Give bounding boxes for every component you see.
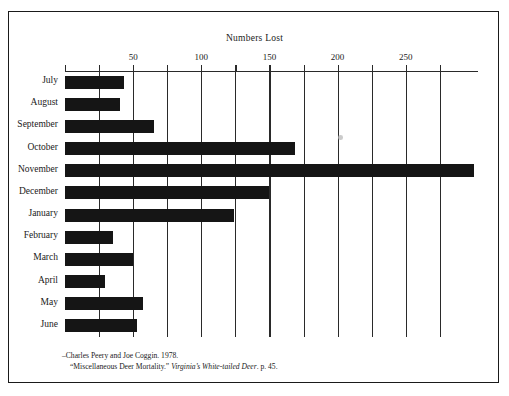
bar-june [65, 319, 137, 332]
gridline-250 [406, 71, 407, 337]
citation-line-2: “Miscellaneous Deer Mortality.” Virginia… [62, 362, 278, 373]
category-axis-labels: JulyAugustSeptemberOctoberNovemberDecemb… [0, 71, 58, 337]
bar-august [65, 98, 120, 111]
gridline-75 [167, 71, 168, 337]
axis-tick-label-150: 150 [263, 52, 277, 62]
axis-tick-label-250: 250 [399, 52, 413, 62]
category-label-may: May [41, 297, 58, 307]
bar-may [65, 297, 143, 310]
gridline-125 [235, 71, 236, 337]
gridline-150 [269, 71, 270, 337]
category-label-october: October [27, 142, 58, 152]
figure-page: Numbers Lost JulyAugustSeptemberOctoberN… [0, 0, 509, 396]
bar-february [65, 231, 113, 244]
bar-march [65, 253, 133, 266]
category-label-march: March [33, 252, 58, 262]
value-axis-line [65, 71, 478, 72]
source-citation: –Charles Peery and Joe Coggin. 1978. “Mi… [62, 351, 278, 372]
category-label-november: November [18, 164, 58, 174]
bar-october [65, 142, 295, 155]
axis-tick-label-100: 100 [195, 52, 209, 62]
bar-april [65, 275, 105, 288]
axis-tick-label-200: 200 [331, 52, 345, 62]
citation-page: . p. 45. [257, 362, 278, 371]
citation-book-title: Virginia’s White-tailed Deer [171, 362, 256, 371]
scan-artifact-smudge [338, 135, 343, 140]
citation-article-title: “Miscellaneous Deer Mortality.” [70, 362, 171, 371]
bar-november [65, 164, 474, 177]
gridline-100 [201, 71, 202, 337]
bar-december [65, 186, 269, 199]
gridline-200 [338, 71, 339, 337]
gridline-225 [372, 71, 373, 337]
axis-tick-label-50: 50 [129, 52, 138, 62]
category-label-august: August [31, 97, 58, 107]
category-label-september: September [17, 119, 58, 129]
plot-area: 50100150200250 [65, 71, 478, 337]
chart-title: Numbers Lost [0, 33, 509, 43]
gridline-275 [440, 71, 441, 337]
bar-july [65, 76, 124, 89]
citation-line-1: –Charles Peery and Joe Coggin. 1978. [62, 351, 278, 362]
bar-january [65, 209, 234, 222]
axis-tick-0 [65, 65, 66, 72]
category-label-april: April [38, 275, 58, 285]
category-label-july: July [42, 75, 58, 85]
category-label-february: February [24, 230, 58, 240]
category-label-january: January [28, 208, 58, 218]
category-label-june: June [41, 319, 58, 329]
bar-september [65, 120, 154, 133]
gridline-175 [304, 71, 305, 337]
category-label-december: December [19, 186, 58, 196]
